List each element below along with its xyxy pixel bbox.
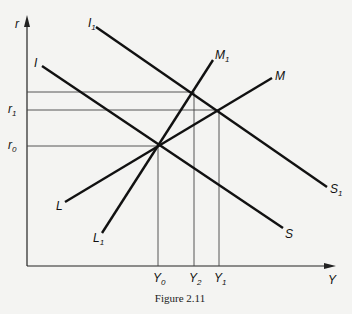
tick-y1: Y1 bbox=[214, 271, 226, 287]
x-axis-arrow-icon bbox=[324, 263, 336, 269]
tick-y0: Y0 bbox=[153, 271, 166, 287]
lm-curve bbox=[65, 78, 272, 202]
figure-caption: Figure 2.11 bbox=[155, 292, 205, 304]
tick-y2: Y2 bbox=[189, 271, 202, 287]
l1m1-curve bbox=[102, 60, 213, 233]
tick-r1: r1 bbox=[8, 102, 16, 118]
x-axis-label: Y bbox=[328, 273, 337, 287]
label-s1: S1 bbox=[330, 182, 342, 198]
label-s: S bbox=[285, 227, 293, 241]
label-l1: L1 bbox=[93, 231, 104, 247]
label-i: I bbox=[34, 56, 38, 70]
label-l: L bbox=[56, 199, 63, 213]
y-axis-arrow-icon bbox=[24, 15, 30, 27]
diagram-svg: r Y I S I1 S1 L M L1 M1 r1 r0 Y0 Y2 Y1 F… bbox=[0, 0, 352, 314]
label-m: M bbox=[275, 69, 285, 83]
is-curve bbox=[42, 66, 283, 228]
label-m1: M1 bbox=[215, 48, 229, 64]
y-axis-label: r bbox=[15, 17, 20, 31]
is-lm-diagram: r Y I S I1 S1 L M L1 M1 r1 r0 Y0 Y2 Y1 F… bbox=[0, 0, 352, 314]
tick-r0: r0 bbox=[8, 138, 17, 154]
label-i1: I1 bbox=[88, 16, 96, 32]
